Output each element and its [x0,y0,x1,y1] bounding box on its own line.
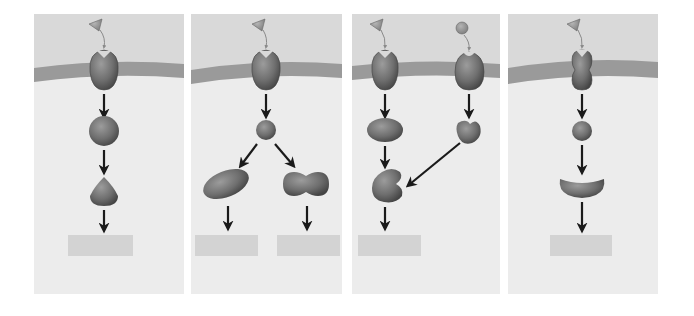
response-label-panel-2-right [277,235,340,256]
signaling-diagram [0,0,694,316]
response-label-panel-2-left [195,235,258,256]
ellipse-relay-icon [367,118,403,142]
response-label-panel-3 [358,235,421,256]
sphere-relay-icon [89,116,119,146]
sphere-relay-icon [572,121,592,141]
receptor-b-icon [455,52,484,90]
ligand-circle-icon [456,22,468,34]
response-label-panel-4 [550,235,612,256]
small-sphere-relay-icon [256,120,276,140]
response-label-panel-1 [68,235,133,256]
